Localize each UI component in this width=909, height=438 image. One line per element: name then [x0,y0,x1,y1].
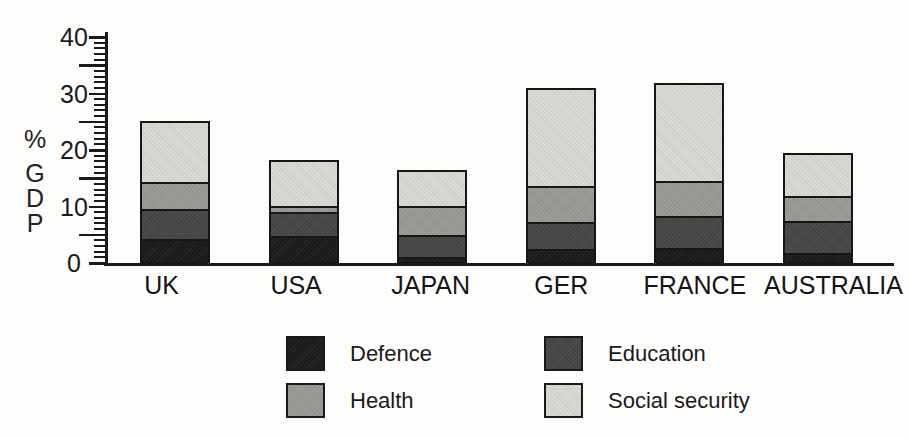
segment-social-security-uk [142,123,208,182]
legend-item-defence: Defence [286,336,544,371]
bar-uk [140,121,210,265]
segment-social-security-japan [399,172,465,206]
segment-health-france [656,181,722,216]
legend-label-defence: Defence [350,341,432,367]
bar-australia [783,153,853,265]
y-axis-title-char: D [21,186,49,211]
legend-label-health: Health [350,388,414,414]
segment-health-uk [142,182,208,210]
segment-defence-ger [528,249,594,262]
segment-health-ger [528,186,594,222]
segment-education-france [656,216,722,248]
legend-label-education: Education [608,341,706,367]
y-axis-tick-label: 40 [48,24,100,50]
y-axis-tick [94,132,107,134]
x-axis-category-label: USA [226,272,366,298]
y-axis-tick [94,256,107,258]
y-axis-tick [94,126,107,128]
x-axis-category-label: AUSTRALIA [764,272,904,298]
y-axis-tick [94,239,107,241]
segment-education-usa [271,212,337,237]
y-axis-tick [94,138,107,140]
x-axis-category-label: UK [92,272,232,298]
y-axis-tick [94,228,107,230]
education-swatch [544,336,583,371]
y-axis-tick [94,245,107,247]
y-axis-tick [94,189,107,191]
bar-japan [397,170,467,264]
legend: Defence Education Health Social security [286,336,750,418]
legend-item-health: Health [286,383,544,418]
y-axis-tick [94,172,107,174]
segment-defence-australia [785,253,851,263]
y-axis-tick [94,200,107,202]
y-axis-tick [79,234,107,237]
y-axis-tick [94,59,107,61]
y-axis-title: %GDP [21,127,49,236]
x-axis-category-label: GER [491,272,631,298]
segment-health-australia [785,196,851,221]
y-axis-tick [94,222,107,224]
y-axis-tick [79,177,107,180]
y-axis-title-char: P [21,211,49,236]
x-axis [104,263,894,266]
segment-defence-france [656,248,722,263]
segment-education-ger [528,222,594,249]
stacked-bar-chart-figure: %GDP 010203040 UKUSAJAPANGERFRANCEAUSTRA… [0,0,909,438]
legend-item-education: Education [544,336,750,371]
segment-social-security-australia [785,155,851,197]
legend-item-social-security: Social security [544,383,750,418]
segment-social-security-ger [528,90,594,187]
y-axis-tick [94,166,107,168]
y-axis-tick [94,109,107,111]
bar-usa [269,160,339,264]
y-axis-tick [94,115,107,117]
segment-education-australia [785,221,851,253]
y-axis-tick [94,76,107,78]
y-axis-title-char: G [21,161,49,186]
y-axis-tick-label: 10 [48,194,100,220]
x-axis-category-label: FRANCE [625,272,765,298]
segment-defence-uk [142,239,208,263]
segment-defence-japan [399,257,465,263]
y-axis-tick [94,81,107,83]
health-swatch [286,383,325,418]
y-axis-tick [94,251,107,253]
segment-social-security-france [656,85,722,182]
y-axis-tick-label: 30 [48,81,100,107]
y-axis-title-char: % [21,127,49,152]
y-axis-tick [94,70,107,72]
segment-health-japan [399,206,465,235]
social-security-swatch [544,383,583,418]
bar-france [654,83,724,265]
y-axis-tick [79,64,107,67]
y-axis-tick [94,143,107,145]
segment-social-security-usa [271,162,337,206]
x-axis-category-label: JAPAN [361,272,501,298]
segment-education-uk [142,209,208,238]
y-axis-tick [94,53,107,55]
segment-education-japan [399,235,465,257]
y-axis-tick-label: 20 [48,137,100,163]
y-axis-tick [94,183,107,185]
y-axis-tick [94,194,107,196]
y-axis-tick [79,121,107,124]
defence-swatch [286,336,325,371]
segment-defence-usa [271,236,337,262]
bar-ger [526,88,596,265]
legend-label-social-security: Social security [608,388,750,414]
y-axis-tick [94,87,107,89]
